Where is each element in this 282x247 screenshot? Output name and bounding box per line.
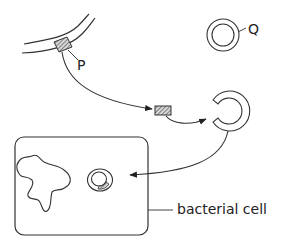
bacterial-cell (15, 137, 148, 235)
plasmid-q (207, 19, 239, 51)
opened-plasmid (213, 91, 250, 131)
label-bacterial-cell: bacterial cell (177, 202, 267, 216)
gene-fragment (155, 106, 171, 115)
q-leader-line (238, 28, 246, 32)
bacterial-chromosome (17, 155, 71, 211)
gene-segment-p (54, 37, 72, 52)
arrow-excision (62, 52, 152, 109)
label-q: Q (248, 22, 259, 36)
recombinant-plasmid (88, 169, 113, 191)
arrow-insertion (166, 116, 206, 123)
arrow-transformation (130, 131, 228, 175)
label-p: P (77, 58, 85, 72)
